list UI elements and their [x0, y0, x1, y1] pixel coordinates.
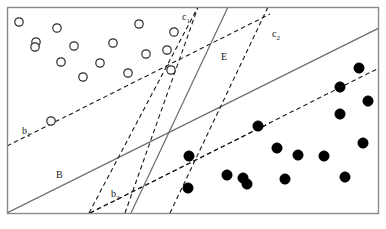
- open-circle-point-12: [163, 46, 171, 54]
- open-circle-point-16: [31, 43, 39, 51]
- filled-dot-point-11: [222, 170, 232, 180]
- filled-dot-point-15: [238, 173, 248, 183]
- filled-dot-point-5: [335, 109, 345, 119]
- filled-dot-point-4: [253, 121, 263, 131]
- open-circle-point-13: [124, 69, 132, 77]
- open-circle-point-2: [53, 24, 61, 32]
- open-circle-point-14: [167, 66, 175, 74]
- filled-dot-point-12: [280, 174, 290, 184]
- version-space-figure: b1Bb2c1Ec2: [0, 0, 386, 229]
- filled-dot-point-8: [319, 151, 329, 161]
- filled-dot-point-7: [184, 151, 194, 161]
- figure-frame: [8, 8, 379, 214]
- boundary-label-subscript-b1: 1: [27, 131, 31, 139]
- filled-dot-point-2: [335, 82, 345, 92]
- open-circle-point-6: [57, 58, 65, 66]
- figure-canvas: b1Bb2c1Ec2: [0, 0, 386, 229]
- filled-dot-point-16: [183, 183, 193, 193]
- open-circle-point-9: [109, 39, 117, 47]
- filled-dot-point-14: [340, 172, 350, 182]
- filled-dot-point-10: [358, 138, 368, 148]
- open-circle-point-1: [15, 18, 23, 26]
- filled-dot-point-6: [272, 143, 282, 153]
- boundary-label-B: B: [56, 169, 63, 180]
- open-circle-point-10: [142, 50, 150, 58]
- filled-dot-point-9: [293, 150, 303, 160]
- filled-dot-point-1: [354, 63, 364, 73]
- open-circle-point-11: [79, 73, 87, 81]
- filled-dot-point-3: [363, 96, 373, 106]
- boundary-label-subscript-b2: 2: [116, 194, 120, 202]
- boundary-label-E: E: [221, 51, 227, 62]
- open-circle-point-7: [96, 59, 104, 67]
- open-circle-point-15: [47, 117, 55, 125]
- open-circle-point-5: [135, 20, 143, 28]
- open-circle-point-8: [170, 28, 178, 36]
- boundary-label-subscript-c1: 1: [186, 17, 190, 25]
- open-circle-point-4: [70, 42, 78, 50]
- boundary-label-subscript-c2: 2: [276, 34, 280, 42]
